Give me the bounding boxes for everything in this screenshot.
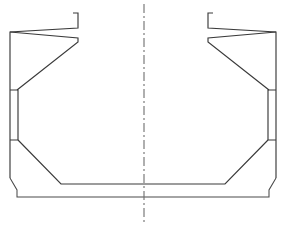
left-outer-shell-bottom-path <box>10 178 144 197</box>
right-upper-flange-path <box>208 32 276 90</box>
right-half-group <box>144 13 276 197</box>
left-upper-flange-path <box>10 32 78 90</box>
left-outer-profile-path <box>10 13 78 178</box>
right-outer-profile-path <box>208 13 276 178</box>
left-half-group <box>10 13 144 197</box>
left-side-panel-path <box>10 90 18 140</box>
right-bilge-chamfer-path <box>144 140 268 184</box>
cross-section-drawing <box>0 0 286 234</box>
left-bilge-chamfer-path <box>18 140 144 184</box>
right-side-panel-path <box>268 90 276 140</box>
right-outer-shell-bottom-path <box>144 178 276 197</box>
technical-drawing-canvas <box>0 0 286 234</box>
